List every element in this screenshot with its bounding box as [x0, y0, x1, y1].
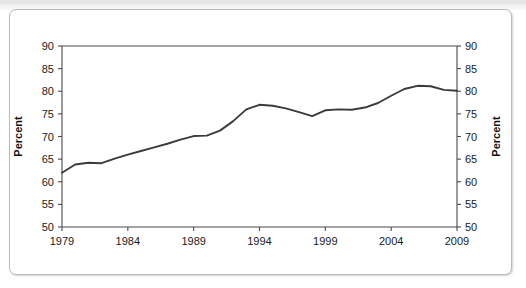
y-tick-label-right: 85 [465, 63, 477, 75]
y-tick-label-left: 55 [42, 198, 54, 210]
y-tick-label-left: 65 [42, 153, 54, 165]
y-tick-label-left: 85 [42, 63, 54, 75]
x-tick-label: 1984 [116, 235, 140, 247]
y-tick-label-left: 75 [42, 108, 54, 120]
x-tick-label: 1994 [247, 235, 271, 247]
y-tick-label-left: 80 [42, 85, 54, 97]
data-series-line [62, 86, 457, 173]
y-axis-title-right: Percent [490, 116, 502, 157]
figure-root: 5055606570758085905055606570758085901979… [0, 0, 526, 288]
y-tick-label-right: 50 [465, 221, 477, 233]
x-tick-label: 2004 [379, 235, 403, 247]
y-tick-label-left: 60 [42, 176, 54, 188]
x-tick-label: 1979 [50, 235, 74, 247]
y-tick-label-right: 75 [465, 108, 477, 120]
y-tick-label-right: 60 [465, 176, 477, 188]
y-tick-label-left: 70 [42, 131, 54, 143]
x-tick-label: 1999 [313, 235, 337, 247]
x-tick-label: 1989 [181, 235, 205, 247]
y-tick-label-right: 80 [465, 85, 477, 97]
x-tick-label: 2009 [445, 235, 469, 247]
y-tick-label-left: 90 [42, 40, 54, 52]
y-tick-label-right: 90 [465, 40, 477, 52]
y-tick-label-right: 65 [465, 153, 477, 165]
line-chart: 5055606570758085905055606570758085901979… [0, 0, 526, 288]
y-tick-label-right: 55 [465, 198, 477, 210]
chart-plot-area: 5055606570758085905055606570758085901979… [0, 0, 526, 288]
y-tick-label-right: 70 [465, 131, 477, 143]
y-axis-title-left: Percent [12, 116, 24, 157]
y-tick-label-left: 50 [42, 221, 54, 233]
